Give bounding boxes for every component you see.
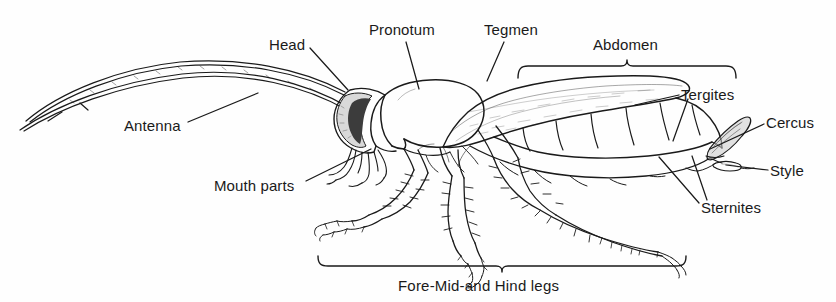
label-mouth-parts: Mouth parts bbox=[214, 177, 294, 194]
hindleg bbox=[478, 126, 686, 278]
tegmen bbox=[443, 76, 690, 148]
thorax-segments bbox=[404, 144, 478, 172]
compound-eye bbox=[337, 93, 372, 147]
foreleg bbox=[315, 149, 430, 241]
label-cercus: Cercus bbox=[766, 114, 814, 131]
antenna-lower bbox=[20, 72, 350, 131]
antenna-upper bbox=[26, 61, 345, 122]
cercus bbox=[706, 117, 751, 160]
abdomen-tergites bbox=[494, 98, 722, 158]
anatomy-figure: Antenna Head Pronotum Tegmen Abdomen Ter… bbox=[0, 0, 836, 302]
style-leader bbox=[726, 165, 768, 170]
sternites-leader-b bbox=[692, 156, 707, 200]
label-sternites: Sternites bbox=[701, 199, 761, 216]
abdomen-sternites bbox=[470, 146, 722, 186]
label-style: Style bbox=[770, 162, 804, 179]
sternites-leader-a bbox=[659, 157, 699, 203]
label-abdomen: Abdomen bbox=[593, 36, 658, 53]
label-tergites: Tergites bbox=[681, 86, 734, 103]
label-head: Head bbox=[269, 36, 305, 53]
label-antenna: Antenna bbox=[124, 117, 181, 134]
label-tegmen: Tegmen bbox=[484, 21, 538, 38]
legs-bracket bbox=[318, 256, 686, 272]
tegmen-leader bbox=[487, 42, 504, 81]
midleg bbox=[440, 148, 487, 288]
mouth-parts bbox=[327, 148, 386, 186]
label-legs-bracket: Fore-Mid-and Hind legs bbox=[398, 277, 559, 294]
pronotum bbox=[381, 80, 484, 149]
tergites-leader-a bbox=[635, 95, 679, 105]
cockroach-line-drawing bbox=[0, 0, 836, 302]
tergites-leader-b bbox=[673, 99, 688, 141]
label-pronotum: Pronotum bbox=[369, 21, 435, 38]
antenna-leader bbox=[188, 93, 258, 122]
